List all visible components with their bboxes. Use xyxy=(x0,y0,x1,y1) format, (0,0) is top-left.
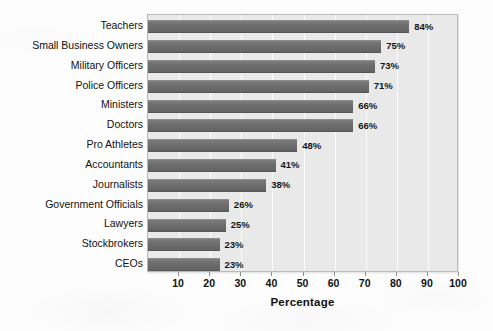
bar-value-label: 66% xyxy=(358,99,377,112)
bar[interactable] xyxy=(148,199,229,212)
plot-area: 84%75%73%71%66%66%48%41%38%26%25%23%23% xyxy=(147,14,458,272)
x-tick-mark-60 xyxy=(334,272,335,276)
bar-chart-figure: TeachersSmall Business OwnersMilitary Of… xyxy=(0,0,493,331)
category-label: Stockbrokers xyxy=(82,234,143,254)
bar[interactable] xyxy=(148,179,266,192)
bar-row[interactable]: 41% xyxy=(148,156,457,176)
x-tick-label-70: 70 xyxy=(359,277,371,289)
category-label: Pro Athletes xyxy=(86,135,143,155)
bar-value-label: 48% xyxy=(302,139,321,152)
bar-value-label: 25% xyxy=(231,218,250,231)
bar-value-label: 38% xyxy=(271,178,290,191)
category-label: Teachers xyxy=(100,16,143,36)
gridline-100 xyxy=(459,15,460,271)
x-tick-label-10: 10 xyxy=(172,277,184,289)
x-tick-mark-100 xyxy=(458,272,459,276)
category-label: Police Officers xyxy=(76,76,144,96)
bar-value-label: 23% xyxy=(225,258,244,271)
x-axis-title: Percentage xyxy=(147,296,458,308)
category-label: Government Officials xyxy=(45,195,143,215)
x-tick-mark-20 xyxy=(209,272,210,276)
x-tick-mark-30 xyxy=(240,272,241,276)
bar[interactable] xyxy=(148,219,226,232)
bar-value-label: 66% xyxy=(358,119,377,132)
bar-row[interactable]: 23% xyxy=(148,235,457,255)
bar-row[interactable]: 71% xyxy=(148,77,457,97)
x-tick-label-20: 20 xyxy=(203,277,215,289)
bar[interactable] xyxy=(148,238,220,251)
category-label: Military Officers xyxy=(71,56,143,76)
bar[interactable] xyxy=(148,119,353,132)
bar[interactable] xyxy=(148,20,409,33)
bars-layer: 84%75%73%71%66%66%48%41%38%26%25%23%23% xyxy=(148,15,457,271)
category-label: Accountants xyxy=(85,155,143,175)
bar-value-label: 23% xyxy=(225,238,244,251)
bar-value-label: 26% xyxy=(234,198,253,211)
bar[interactable] xyxy=(148,139,297,152)
bar-row[interactable]: 66% xyxy=(148,116,457,136)
bar[interactable] xyxy=(148,40,381,53)
bar-value-label: 84% xyxy=(414,20,433,33)
x-tick-label-100: 100 xyxy=(449,277,467,289)
category-label: Small Business Owners xyxy=(32,36,143,56)
bar-row[interactable]: 75% xyxy=(148,37,457,57)
bar[interactable] xyxy=(148,60,375,73)
bar-value-label: 73% xyxy=(380,59,399,72)
x-tick-mark-50 xyxy=(303,272,304,276)
x-tick-mark-40 xyxy=(271,272,272,276)
bar[interactable] xyxy=(148,258,220,271)
x-tick-label-80: 80 xyxy=(390,277,402,289)
bar-value-label: 71% xyxy=(374,79,393,92)
category-label: Journalists xyxy=(93,175,143,195)
bar-row[interactable]: 66% xyxy=(148,96,457,116)
bar[interactable] xyxy=(148,80,369,93)
category-label: Ministers xyxy=(101,95,143,115)
bar[interactable] xyxy=(148,159,276,172)
x-tick-mark-70 xyxy=(365,272,366,276)
category-label: Lawyers xyxy=(104,214,143,234)
category-label: CEOs xyxy=(115,254,143,274)
x-tick-label-60: 60 xyxy=(328,277,340,289)
bar-row[interactable]: 84% xyxy=(148,17,457,37)
bar-row[interactable]: 25% xyxy=(148,215,457,235)
bar-row[interactable]: 26% xyxy=(148,196,457,216)
category-label: Doctors xyxy=(107,115,143,135)
bar-row[interactable]: 48% xyxy=(148,136,457,156)
x-tick-label-30: 30 xyxy=(234,277,246,289)
x-tick-mark-90 xyxy=(427,272,428,276)
category-axis-labels: TeachersSmall Business OwnersMilitary Of… xyxy=(0,14,143,272)
bar-row[interactable]: 73% xyxy=(148,57,457,77)
bar-value-label: 41% xyxy=(281,158,300,171)
x-tick-mark-10 xyxy=(178,272,179,276)
bar-value-label: 75% xyxy=(386,39,405,52)
x-tick-label-40: 40 xyxy=(266,277,278,289)
x-tick-label-90: 90 xyxy=(421,277,433,289)
bar[interactable] xyxy=(148,100,353,113)
bar-row[interactable]: 38% xyxy=(148,176,457,196)
x-tick-label-50: 50 xyxy=(297,277,309,289)
x-tick-mark-80 xyxy=(396,272,397,276)
